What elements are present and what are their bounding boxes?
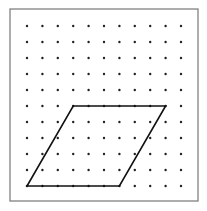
grid-dot <box>26 89 28 91</box>
grid-dot <box>87 25 89 27</box>
grid-dot <box>87 153 89 155</box>
grid-dot <box>164 89 166 91</box>
grid-dot <box>87 89 89 91</box>
grid-dot <box>103 137 105 139</box>
grid-dot <box>103 169 105 171</box>
grid-dot <box>57 25 59 27</box>
grid-dot <box>57 73 59 75</box>
grid-dot <box>103 41 105 43</box>
grid-dot <box>164 25 166 27</box>
grid-dot <box>134 185 136 187</box>
grid-dot <box>57 153 59 155</box>
grid-dot <box>180 25 182 27</box>
grid-dot <box>180 105 182 107</box>
grid-dot <box>26 153 28 155</box>
grid-dot <box>41 121 43 123</box>
grid-dot <box>134 137 136 139</box>
grid-dot <box>134 169 136 171</box>
grid-dot <box>180 169 182 171</box>
grid-dot <box>41 73 43 75</box>
grid-dot <box>87 121 89 123</box>
grid-dot <box>87 169 89 171</box>
grid-dot <box>180 41 182 43</box>
grid-dot <box>164 153 166 155</box>
grid-dot <box>57 57 59 59</box>
grid-dot <box>149 153 151 155</box>
grid-dot <box>26 41 28 43</box>
grid-dot <box>134 73 136 75</box>
grid-dot <box>134 153 136 155</box>
grid-dot <box>164 169 166 171</box>
grid-dot <box>57 121 59 123</box>
grid-dot <box>26 73 28 75</box>
grid-dot <box>118 137 120 139</box>
parallelogram-shape <box>27 106 166 186</box>
grid-dot <box>134 41 136 43</box>
grid-dot <box>164 73 166 75</box>
grid-dot <box>164 57 166 59</box>
grid-dot <box>103 73 105 75</box>
grid-dot <box>41 153 43 155</box>
grid-dot <box>118 121 120 123</box>
grid-dot <box>26 169 28 171</box>
grid-dot <box>180 185 182 187</box>
grid-dot <box>134 25 136 27</box>
grid-dot <box>180 57 182 59</box>
grid-dot <box>149 89 151 91</box>
grid-dot <box>41 89 43 91</box>
grid-dot <box>26 105 28 107</box>
grid-dot <box>72 153 74 155</box>
grid-dot <box>164 41 166 43</box>
grid-dot <box>164 121 166 123</box>
grid-dot <box>149 41 151 43</box>
grid-dot <box>180 89 182 91</box>
grid-dot <box>118 41 120 43</box>
grid-dot <box>180 137 182 139</box>
grid-dot <box>57 89 59 91</box>
grid-dot <box>72 121 74 123</box>
grid-dot <box>149 25 151 27</box>
grid-dot <box>118 153 120 155</box>
grid-dot <box>180 153 182 155</box>
grid-dot <box>41 57 43 59</box>
grid-dot <box>103 57 105 59</box>
grid-dot <box>103 121 105 123</box>
grid-dot <box>72 137 74 139</box>
grid-dot <box>41 169 43 171</box>
grid-dot <box>134 89 136 91</box>
grid-dot <box>41 25 43 27</box>
grid-dot <box>87 137 89 139</box>
grid-dot <box>26 137 28 139</box>
grid-dot <box>118 57 120 59</box>
grid-dot <box>134 57 136 59</box>
grid-dot <box>72 169 74 171</box>
grid-dot <box>118 89 120 91</box>
grid-dot <box>134 121 136 123</box>
grid-dot <box>57 41 59 43</box>
grid-dot <box>41 41 43 43</box>
grid-dot <box>180 121 182 123</box>
grid-dot <box>103 89 105 91</box>
grid-dot <box>149 121 151 123</box>
grid-dot <box>72 25 74 27</box>
grid-dot <box>26 57 28 59</box>
grid-dot <box>41 137 43 139</box>
grid-dot <box>103 25 105 27</box>
grid-dot <box>87 41 89 43</box>
dot-grid-diagram <box>0 0 207 211</box>
grid-dot <box>57 169 59 171</box>
grid-dot <box>149 169 151 171</box>
grid-dot <box>180 73 182 75</box>
grid-dot <box>118 25 120 27</box>
grid-dot <box>87 57 89 59</box>
grid-dot <box>118 73 120 75</box>
grid-dot <box>72 89 74 91</box>
grid-dot <box>149 137 151 139</box>
grid-dot <box>41 105 43 107</box>
grid-dot <box>57 137 59 139</box>
grid-dot <box>164 185 166 187</box>
grid-dot <box>149 57 151 59</box>
grid-dot <box>72 57 74 59</box>
grid-dot <box>118 169 120 171</box>
grid-dot <box>26 25 28 27</box>
